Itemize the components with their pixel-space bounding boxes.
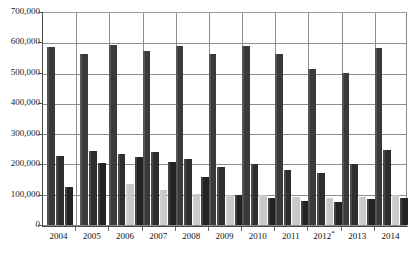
bar-group [209,13,242,225]
bar [308,69,316,225]
bar [217,167,225,225]
bar [342,73,350,225]
bar [89,151,97,225]
bar [135,157,143,225]
bars-layer [43,13,406,225]
bar [284,170,292,225]
bar-group [76,13,109,225]
bar-group [43,13,76,225]
x-axis-tick-mark [307,227,308,231]
bar [326,198,334,225]
x-axis-tick-mark [142,227,143,231]
bar [126,184,134,225]
bar [151,152,159,225]
bar-group [275,13,308,225]
bar [65,187,73,225]
x-axis-tick-mark [208,227,209,231]
y-axis-tick-label: 200,000 [4,159,40,168]
bar [367,199,375,225]
bar [242,46,250,225]
bar-chart: 700,000600,000500,000400,000300,000200,0… [0,0,415,256]
bar [292,197,300,225]
bar [168,162,176,225]
bar [259,195,267,225]
bar [80,54,88,225]
x-axis-tick-mark [374,227,375,231]
bar-group [176,13,209,225]
bar [226,195,234,225]
bar-group [109,13,142,225]
bar-group [308,13,341,225]
bar [209,54,217,225]
bar-group [143,13,176,225]
bar-group [375,13,408,225]
bar [383,150,391,225]
bar [268,198,276,225]
bar [334,202,342,225]
x-axis-tick-label: 2014 [370,231,410,242]
x-axis-tick-mark [341,227,342,231]
bar-group [242,13,275,225]
y-axis-tick-label: 100,000 [4,190,40,199]
bar [143,51,151,225]
bar [160,190,168,225]
y-axis-tick-label: 300,000 [4,129,40,138]
bar [317,173,325,225]
bar [118,154,126,225]
bar [235,195,243,225]
bar [109,45,117,225]
y-axis-tick-label: 700,000 [4,7,40,16]
bar [47,47,55,225]
bar [275,54,283,225]
y-axis-tick-label: 0 [4,220,40,229]
bar-group [342,13,375,225]
bar [184,159,192,225]
y-axis: 700,000600,000500,000400,000300,000200,0… [0,0,40,256]
bar [176,46,184,225]
x-axis-tick-mark [175,227,176,231]
bar [350,164,358,225]
bar [400,198,408,225]
y-axis-tick-label: 500,000 [4,68,40,77]
x-axis-line [42,226,408,227]
y-axis-tick-label: 600,000 [4,37,40,46]
x-axis-tick-mark [241,227,242,231]
bar [56,156,64,225]
x-axis-tick-mark [75,227,76,231]
bar [193,194,201,225]
bar [301,201,309,225]
bar [201,177,209,225]
y-axis-tick-label: 400,000 [4,98,40,107]
x-axis-tick-mark [274,227,275,231]
bar [251,164,259,225]
bar [359,197,367,225]
bar [375,48,383,225]
bar [98,163,106,225]
bar [392,195,400,225]
x-axis-tick-mark [108,227,109,231]
